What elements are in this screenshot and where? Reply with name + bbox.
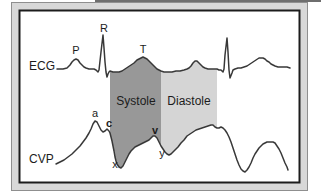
ecg-label: ECG bbox=[29, 59, 55, 73]
v-wave-label: v bbox=[152, 124, 159, 136]
scan-artifact bbox=[95, 0, 321, 2]
x-descent-label: x bbox=[112, 158, 118, 170]
y-descent-label: y bbox=[159, 147, 165, 159]
a-wave-label: a bbox=[92, 107, 99, 119]
diastole-label: Diastole bbox=[167, 94, 211, 108]
cvp-label: CVP bbox=[29, 152, 54, 166]
systole-label: Systole bbox=[116, 94, 156, 108]
ecg-cvp-figure: ECG CVP Systole Diastole P R T a c v x y bbox=[0, 0, 321, 195]
t-wave-label: T bbox=[140, 43, 147, 55]
c-wave-label: c bbox=[106, 117, 112, 129]
r-wave-label: R bbox=[100, 22, 108, 34]
p-wave-label: P bbox=[72, 44, 79, 56]
